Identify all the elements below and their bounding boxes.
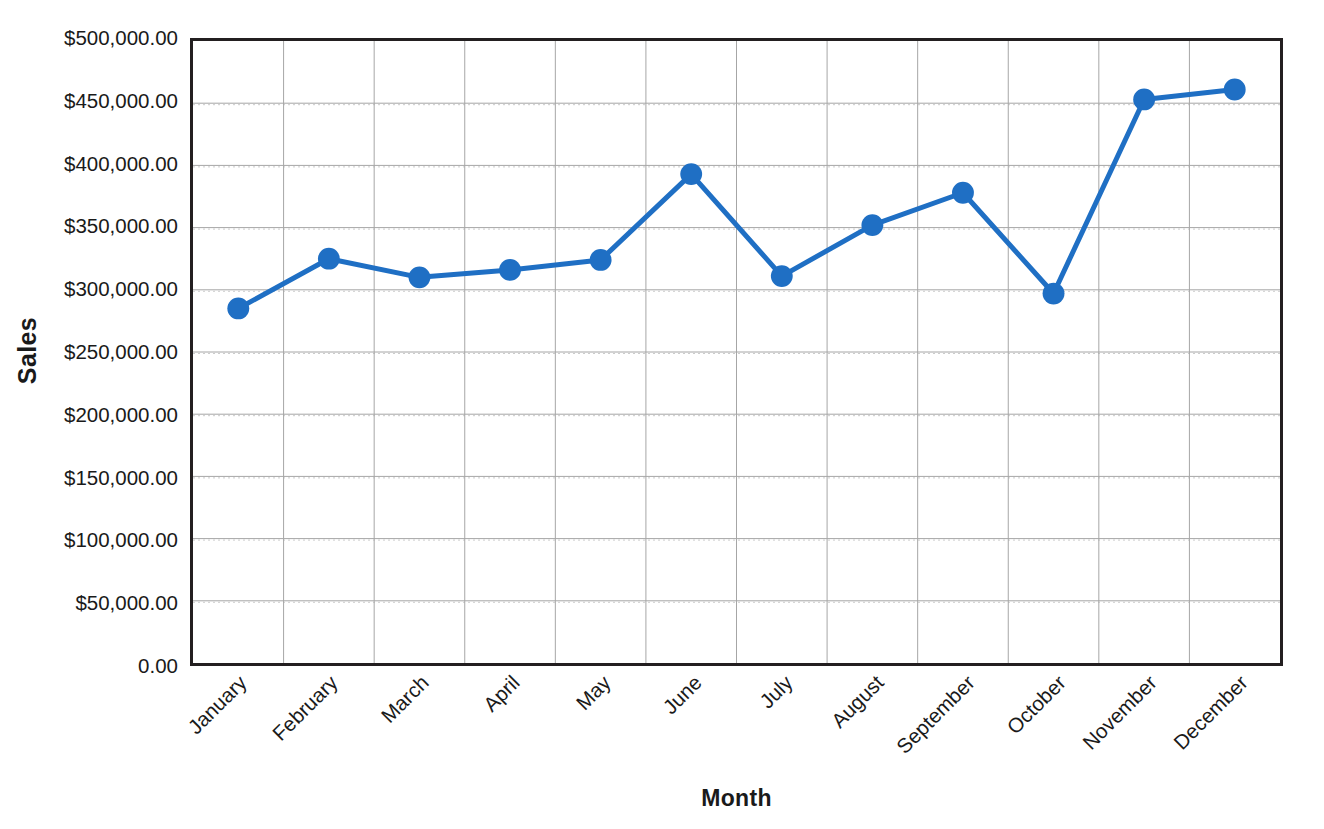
- data-point-marker[interactable]: [952, 182, 974, 204]
- y-axis-tick-label: $250,000.00: [0, 342, 178, 363]
- y-axis-tick-label: $350,000.00: [0, 216, 178, 237]
- data-point-marker[interactable]: [409, 266, 431, 288]
- plot-area: [190, 38, 1283, 666]
- series-line: [238, 90, 1234, 309]
- data-point-marker[interactable]: [590, 249, 612, 271]
- line-chart: Sales 0.00$50,000.00$100,000.00$150,000.…: [0, 0, 1324, 829]
- data-point-marker[interactable]: [1133, 89, 1155, 111]
- y-axis-tick-label: $500,000.00: [0, 28, 178, 49]
- y-axis-tick-label: $300,000.00: [0, 279, 178, 300]
- y-axis-tick-label: $50,000.00: [0, 593, 178, 614]
- data-point-marker[interactable]: [861, 214, 883, 236]
- y-axis-tick-label: $400,000.00: [0, 153, 178, 174]
- data-point-marker[interactable]: [318, 248, 340, 270]
- data-point-marker[interactable]: [771, 265, 793, 287]
- data-point-marker[interactable]: [1224, 79, 1246, 101]
- sales-series: [193, 41, 1280, 663]
- y-axis-tick-label: $100,000.00: [0, 530, 178, 551]
- x-axis-title: Month: [190, 785, 1283, 812]
- y-axis-tick-label: $200,000.00: [0, 405, 178, 426]
- data-point-marker[interactable]: [499, 259, 521, 281]
- data-point-marker[interactable]: [680, 163, 702, 185]
- y-axis-tick-label: $450,000.00: [0, 91, 178, 112]
- data-point-marker[interactable]: [227, 298, 249, 320]
- y-axis-tick-label: $150,000.00: [0, 467, 178, 488]
- data-point-marker[interactable]: [1043, 283, 1065, 305]
- y-axis-tick-label: 0.00: [0, 656, 178, 677]
